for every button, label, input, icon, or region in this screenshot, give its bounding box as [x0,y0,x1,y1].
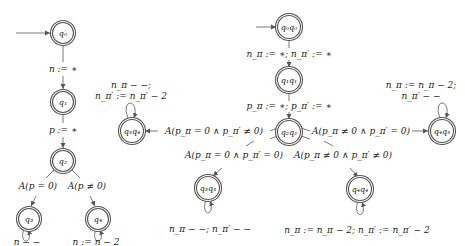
loop-label-q3q4-line2: n_π′ := n_π′ − 2 [95,91,167,101]
edge-label-q2q2-q4q3: A(p_π ≠ 0 ∧ p_π′ = 0) [312,126,410,136]
edge-q2-q3-a [46,170,54,178]
state-label-q2: q₂ [59,157,67,166]
edge-label-q2q2-q3q3: A(p_π = 0 ∧ p_π′ = 0) [185,150,283,160]
state-label-q4q4: q₄q₄ [352,185,369,194]
state-label-q0q0: q₀q₀ [281,23,298,32]
loop-label-q3: n − − [14,237,41,246]
edge-label-q2q2-q4q4: A(p_π ≠ 0 ∧ p_π′ ≠ 0) [294,150,392,160]
edge-q2q2-q3q3-b [246,141,254,146]
edge-q2q2-q4q4-b [324,141,333,146]
edge-q2-q4-a [72,170,80,178]
edge-q2q2-q3q3-c [213,168,222,176]
loop-label-q4: n := n − 2 [73,237,120,246]
state-label-q3: q₃ [25,215,33,224]
loop-label-q3q3: n_π − −; n_π′ − − [169,224,251,234]
loop-q4q3 [438,103,447,118]
state-label-q4q3: q₄q₃ [434,127,451,136]
state-label-q0: q₀ [59,29,67,38]
loop-label-q4q3-line1: n_π := n_π − 2; [386,80,457,90]
loop-label-q4q3-line2: n_π′ − − [401,91,440,101]
edge-label-q1-q2: p := ∗ [49,125,77,135]
state-label-q1: q₁ [59,98,67,107]
state-label-q2q2: q₂q₂ [281,128,298,137]
edge-q2q2-q4q4-a [301,136,310,139]
edge-label-q2-q4: A(p ≠ 0) [68,181,106,191]
state-label-q3q3: q₃q₃ [200,184,217,193]
loop-label-q4q4: n_π := n_π − 2; n_π′ := n_π′ − 2 [284,225,429,235]
automata-diagram: q₀ q₁ q₂ q₃ q₄ n := ∗ p := ∗ A(p = 0) A(… [0,0,465,246]
edge-q2-q3-b [31,196,36,206]
edge-label-q2q2-q3q4: A(p_π = 0 ∧ p_π′ ≠ 0) [165,126,263,136]
loop-label-q3q4-line1: n_π − −; [111,80,151,90]
loop-q3q4 [126,103,135,118]
edge-label-q2-q3: A(p = 0) [19,181,57,191]
edge-label-q0-q1: n := ∗ [49,64,77,74]
state-label-q4: q₄ [94,215,102,224]
diagram-graphics [0,0,465,246]
state-label-q1q1: q₁q₁ [281,76,298,85]
edge-label-q0q0-q1q1: n_π := ∗; n_π′ := ∗ [246,49,331,59]
edge-q2-q4-b [90,196,95,206]
state-label-q3q4: q₃q₄ [124,127,141,136]
edge-label-q1q1-q2q2: p_π := ∗; p_π′ := ∗ [246,101,331,111]
